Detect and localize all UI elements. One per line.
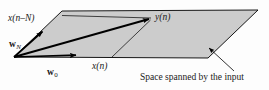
label-weight-N-symbol: w [9, 39, 16, 49]
label-output-arg: (n) [159, 12, 170, 22]
label-input-current: x(n) [92, 62, 107, 72]
label-weight-0: w0 [47, 62, 58, 79]
label-input-delayed: x(n–N) [8, 14, 34, 24]
label-weight-0-symbol: w [47, 67, 54, 77]
space-spanned-by-input-diagram: x(n–N) wN w0 x(n) y(n) Space spanned by … [0, 0, 269, 90]
label-input-delayed-arg: (n–N) [12, 13, 34, 23]
label-output: y(n) [155, 13, 170, 23]
label-weight-N: wN [9, 34, 21, 51]
label-input-current-arg: (n) [96, 61, 107, 71]
label-weight-0-subscript: 0 [54, 71, 58, 79]
caption-pointer-line [209, 48, 234, 71]
label-weight-N-subscript: N [16, 43, 21, 51]
caption-space-spanned: Space spanned by the input [140, 73, 244, 83]
